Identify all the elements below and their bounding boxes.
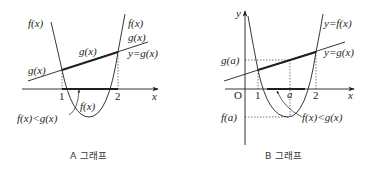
graph-b-tick-1: 1: [255, 89, 261, 101]
graph-b-tick-2: 2: [313, 89, 319, 101]
graph-a-label-f-right: f(x): [128, 17, 144, 30]
graph-a-tick-2: 2: [115, 90, 121, 102]
graph-a-inequality: f(x)<g(x): [17, 112, 58, 125]
graph-b: y y=f(x) y=g(x) g(a) O 1 a 2 x f(a) f(x)…: [221, 7, 354, 145]
graph-b-label-f-a: f(a): [221, 111, 237, 124]
graphs-canvas: f(x) f(x) g(x) g(x) y=g(x) g(x) 1 2 x f(…: [0, 0, 371, 172]
graph-a-label-f-left: f(x): [28, 17, 44, 30]
graph-b-line-eq: y=g(x): [323, 46, 354, 59]
graph-a-label-g-mid: g(x): [79, 45, 97, 58]
graph-b-tick-a: a: [287, 88, 293, 100]
graph-b-caption: B 그래프: [265, 148, 302, 162]
graph-a-x-label: x: [151, 90, 157, 102]
graph-a-label-g-right: g(x): [128, 31, 146, 44]
graph-b-origin: O: [234, 89, 242, 101]
graph-b-label-g-a: g(a): [221, 54, 240, 67]
graph-a-tick-1: 1: [59, 90, 65, 102]
graph-b-x-label: x: [347, 89, 353, 101]
graph-a-label-f-bottom: f(x): [80, 100, 96, 113]
graph-b-parabola-f: [248, 14, 323, 117]
graph-b-curve-eq: y=f(x): [323, 17, 352, 30]
graph-a-caption: A 그래프: [70, 148, 107, 162]
graph-b-inequality: f(x)<g(x): [302, 111, 343, 124]
graph-a-label-g-left: g(x): [28, 64, 46, 77]
graph-b-line-g-bold: [258, 52, 316, 70]
graph-b-y-label: y: [235, 7, 241, 19]
graph-a-label-line-eq: y=g(x): [127, 47, 158, 60]
graph-a: f(x) f(x) g(x) g(x) y=g(x) g(x) 1 2 x f(…: [17, 14, 158, 125]
